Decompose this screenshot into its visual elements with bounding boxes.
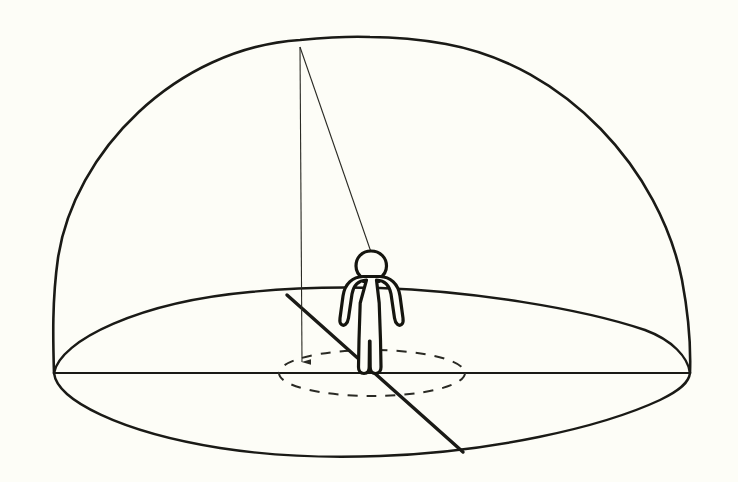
sight-line-to-head bbox=[300, 47, 371, 252]
zenith-drop-line bbox=[300, 47, 302, 362]
human-figure bbox=[340, 251, 403, 374]
ground-plane-front-arc bbox=[54, 373, 690, 457]
diagram-canvas: Hemispherical sky dome with standing obs… bbox=[0, 0, 738, 482]
sky-dome-diagram bbox=[0, 0, 738, 482]
figure-body bbox=[340, 277, 403, 374]
